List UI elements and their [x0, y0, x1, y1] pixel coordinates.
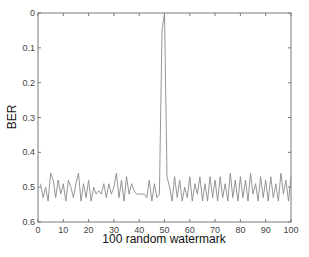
- x-tick-label: 100: [283, 225, 298, 235]
- x-tick-label: 0: [35, 225, 40, 235]
- y-axis-label: BER: [5, 104, 19, 129]
- y-tick-label: 0.4: [22, 147, 35, 157]
- ber-line-chart: 00.10.20.30.40.50.6 01020304050607080901…: [0, 0, 309, 257]
- x-tick-label: 10: [58, 225, 68, 235]
- y-tick-label: 0.2: [22, 78, 35, 88]
- plot-frame: [38, 13, 291, 222]
- y-tick-label: 0.5: [22, 182, 35, 192]
- y-tick-label: 0.1: [22, 43, 35, 53]
- x-tick-label: 80: [235, 225, 245, 235]
- y-tick-label: 0.3: [22, 113, 35, 123]
- x-tick-label: 20: [84, 225, 94, 235]
- y-tick-label: 0.6: [22, 217, 35, 227]
- x-axis-label: 100 random watermark: [102, 232, 226, 246]
- x-tick-label: 90: [261, 225, 271, 235]
- y-tick-label: 0: [30, 8, 35, 18]
